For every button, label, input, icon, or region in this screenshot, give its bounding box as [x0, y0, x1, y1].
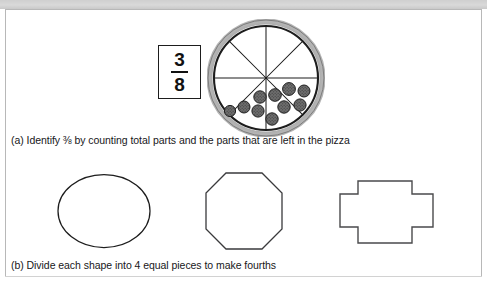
pizza-svg	[207, 19, 325, 137]
fraction-denominator: 8	[174, 74, 185, 94]
figure-root: 3 8	[0, 0, 487, 287]
fraction-stack: 3 8	[171, 50, 188, 94]
shape-ellipse	[50, 165, 160, 261]
panel-a: 3 8	[0, 9, 487, 139]
panel-b	[0, 165, 487, 257]
pepperoni	[278, 101, 290, 113]
ellipse-outline	[58, 175, 150, 248]
pepperoni	[283, 83, 296, 96]
ellipse-svg	[50, 165, 160, 257]
cross-outline	[340, 181, 433, 243]
pizza-illustration	[207, 19, 325, 137]
pepperoni	[294, 99, 306, 111]
shape-octagon	[198, 165, 290, 261]
fraction-numerator: 3	[174, 50, 185, 70]
pepperoni	[266, 113, 278, 125]
caption-panel-b: (b) Divide each shape into 4 equal piece…	[11, 259, 276, 271]
pepperoni	[254, 91, 266, 103]
top-grey-band	[0, 0, 487, 9]
cross-svg	[334, 165, 444, 257]
fraction-card: 3 8	[158, 45, 201, 99]
pepperoni	[238, 101, 250, 113]
bottom-hairline	[5, 276, 482, 277]
pepperoni	[252, 105, 264, 117]
pepperoni	[298, 85, 310, 97]
pepperoni	[269, 89, 282, 102]
caption-panel-a: (a) Identify ⅜ by counting total parts a…	[11, 134, 350, 146]
pepperoni	[224, 105, 235, 116]
octagon-outline	[206, 173, 282, 249]
octagon-svg	[198, 165, 290, 257]
fraction-bar	[171, 71, 188, 73]
shape-cross	[334, 165, 444, 261]
